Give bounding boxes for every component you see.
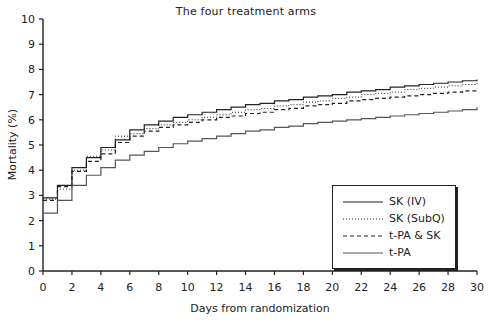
legend-swatch-solid-icon — [343, 249, 383, 257]
x-tick-label: 26 — [412, 281, 426, 294]
chart-plot: 012345678910024681012141618202224262830 — [0, 0, 492, 323]
x-tick-label: 8 — [155, 281, 162, 294]
x-tick-label: 24 — [383, 281, 397, 294]
y-tick-label: 7 — [28, 89, 35, 102]
y-tick-label: 5 — [28, 139, 35, 152]
x-axis-label: Days from randomization — [43, 302, 477, 315]
y-tick-label: 1 — [28, 240, 35, 253]
series-line-1 — [43, 83, 477, 199]
y-tick-label: 3 — [28, 189, 35, 202]
x-tick-label: 18 — [296, 281, 310, 294]
legend-label: t-PA — [389, 246, 411, 259]
x-tick-label: 0 — [40, 281, 47, 294]
legend-swatch-solid-icon — [343, 198, 383, 206]
y-tick-label: 4 — [28, 164, 35, 177]
y-axis-label: Mortality (%) — [6, 105, 19, 185]
x-tick-label: 30 — [470, 281, 484, 294]
x-tick-label: 4 — [97, 281, 104, 294]
x-tick-label: 22 — [354, 281, 368, 294]
legend-item-tpa: t-PA — [333, 246, 455, 260]
x-tick-label: 2 — [68, 281, 75, 294]
x-tick-label: 6 — [126, 281, 133, 294]
legend-swatch-dotted-icon — [343, 215, 383, 223]
x-tick-label: 10 — [181, 281, 195, 294]
y-tick-label: 6 — [28, 114, 35, 127]
x-tick-label: 12 — [210, 281, 224, 294]
y-tick-label: 0 — [28, 265, 35, 278]
y-tick-label: 9 — [28, 38, 35, 51]
legend-label: t-PA & SK — [389, 229, 441, 242]
x-tick-label: 28 — [441, 281, 455, 294]
legend-item-tpa-sk: t-PA & SK — [333, 229, 455, 243]
x-tick-label: 14 — [239, 281, 253, 294]
legend: SK (IV) SK (SubQ) t-PA & SK t-PA — [332, 185, 456, 269]
legend-item-sk-subq: SK (SubQ) — [333, 212, 455, 226]
legend-swatch-dashed-icon — [343, 232, 383, 240]
legend-item-sk-iv: SK (IV) — [333, 195, 455, 209]
chart-title: The four treatment arms — [0, 5, 492, 18]
y-tick-label: 8 — [28, 63, 35, 76]
legend-label: SK (IV) — [389, 195, 426, 208]
y-tick-label: 2 — [28, 215, 35, 228]
series-line-0 — [43, 79, 477, 197]
x-tick-label: 16 — [267, 281, 281, 294]
legend-label: SK (SubQ) — [389, 212, 445, 225]
x-tick-label: 20 — [325, 281, 339, 294]
